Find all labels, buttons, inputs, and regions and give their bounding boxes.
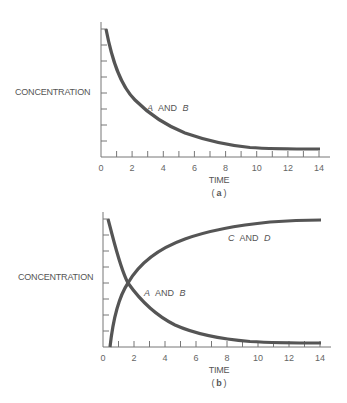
svg-text:0: 0 [98,163,103,173]
caption-b: ( b ) [212,378,227,388]
svg-text:b: b [216,378,222,388]
svg-text:12: 12 [284,353,294,363]
y-axis-label-b: CONCENTRATION [18,272,93,282]
caption-a: ( a ) [212,188,227,198]
x-tick-labels-b: 0 2 4 6 8 10 12 14 [100,353,325,363]
svg-text:): ) [224,378,227,388]
svg-text:(: ( [212,188,215,198]
curve-label-c-and-d: C AND D [228,233,271,243]
svg-text:0: 0 [100,353,105,363]
svg-text:4: 4 [161,163,166,173]
y-axis-label-a: CONCENTRATION [15,87,90,97]
svg-text:(: ( [212,378,215,388]
svg-text:a: a [217,188,223,198]
svg-text:2: 2 [130,163,135,173]
x-axis-label-a: TIME [209,175,230,185]
svg-text:12: 12 [283,163,293,173]
svg-text:10: 10 [253,353,263,363]
svg-text:8: 8 [224,353,229,363]
y-ticks-a [101,29,107,141]
x-ticks-a [117,151,319,157]
svg-text:4: 4 [162,353,167,363]
svg-text:2: 2 [131,353,136,363]
svg-text:10: 10 [252,163,262,173]
svg-text:6: 6 [192,163,197,173]
chart-panel-b: CONCENTRATION [18,212,331,388]
curve-label-a-and-b: A AND B [146,103,189,113]
x-axis-label-b: TIME [209,365,230,375]
figure: CONCENTRATION [0,0,347,403]
svg-text:14: 14 [314,163,324,173]
svg-text:14: 14 [315,353,325,363]
y-ticks-b [103,219,109,331]
chart-panel-a: CONCENTRATION [15,22,330,198]
curve-label-a-and-b-b: A AND B [143,288,186,298]
curve-a-and-b [106,29,320,149]
x-tick-labels-a: 0 2 4 6 8 10 12 14 [98,163,324,173]
curve-a-and-b [108,219,321,343]
curve-c-and-d [110,220,321,347]
svg-text:): ) [224,188,227,198]
svg-text:8: 8 [223,163,228,173]
svg-text:6: 6 [193,353,198,363]
